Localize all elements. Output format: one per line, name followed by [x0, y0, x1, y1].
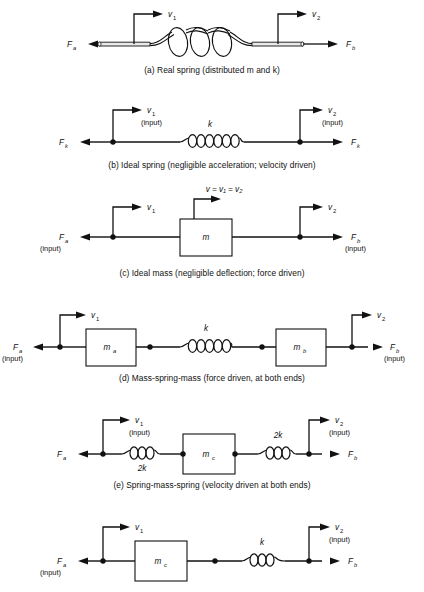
coil-a — [166, 26, 233, 58]
right-force-sub-e: b — [354, 455, 358, 461]
panel-f-mass-spring: m c F a (input) F b v 1 v 2 — [0, 505, 424, 592]
left-input-label-e: (input) — [129, 428, 150, 437]
mid-left-node-d — [147, 344, 152, 349]
left-input-label-f: (input) — [40, 568, 61, 577]
right-velocity-sub-c: 2 — [333, 208, 336, 214]
spring-k-b — [180, 135, 244, 148]
panel-c-diagram: m F a (input) F b (input) v — [0, 183, 424, 275]
left-force-sub-e: a — [63, 455, 67, 461]
left-velocity-indicator-d — [60, 311, 86, 347]
spring-left-label-e: 2k — [137, 464, 148, 473]
right-velocity-indicator-d — [352, 311, 372, 347]
right-input-label-b: (input) — [322, 118, 343, 127]
panel-d-diagram: m a m b F a (input) — [0, 293, 424, 383]
panel-f-diagram: m c F a (input) F b v 1 v 2 — [0, 505, 424, 592]
left-force-arrow-d — [33, 343, 60, 350]
panel-a-real-spring: F a F b v 1 v 2 (a) Real spring (distrib… — [0, 0, 424, 72]
mass-sub-f: c — [164, 562, 167, 568]
panel-e-diagram: m c F a F b v 1 (input) v 2 — [0, 398, 424, 488]
left-velocity-indicator-c — [113, 203, 142, 237]
mass-block-left-d — [86, 329, 136, 366]
left-force-arrow-c — [80, 233, 113, 240]
panel-c-ideal-mass: m F a (input) F b (input) v — [0, 183, 424, 275]
right-force-sub-c: b — [357, 238, 361, 244]
center-velocity-label-c: v = v₁ = v₂ — [206, 185, 244, 194]
mass-block-right-d — [276, 329, 326, 366]
mass-right-label-d: m — [294, 343, 301, 352]
left-force-sub-f: a — [63, 562, 67, 568]
left-velocity-sub-d: 1 — [96, 316, 99, 322]
left-velocity-sub-b: 1 — [152, 111, 155, 117]
spring-label-b: k — [208, 120, 213, 129]
panel-c-caption: (c) Ideal mass (negligible deflection; f… — [0, 268, 424, 278]
right-velocity-sub-d: 2 — [382, 316, 385, 322]
mid-left-node-e — [180, 451, 185, 456]
left-rod-a — [98, 42, 150, 46]
right-force-arrow-e — [330, 450, 340, 457]
panel-a-diagram: F a F b v 1 v 2 — [0, 0, 424, 72]
right-input-label-f: (input) — [329, 535, 350, 544]
right-force-arrow-d — [373, 343, 383, 350]
spring-2k-right-e — [258, 447, 296, 459]
left-force-arrow-e — [78, 450, 103, 457]
spring-2k-left-e — [122, 447, 160, 459]
left-velocity-indicator-f — [103, 523, 130, 561]
right-force-sub-f: b — [354, 562, 358, 568]
mass-left-label-d: m — [104, 343, 111, 352]
left-velocity-sub-c: 1 — [152, 208, 155, 214]
right-velocity-sub-f: 2 — [340, 528, 343, 534]
right-force-arrow-f — [330, 557, 340, 564]
mid-right-node-e — [232, 451, 237, 456]
left-input-label-d: (input) — [2, 354, 23, 363]
mass-label-c: m — [203, 233, 210, 242]
left-input-label-b: (input) — [141, 118, 162, 127]
right-velocity-indicator-f — [309, 523, 330, 561]
right-velocity-indicator-a — [278, 10, 307, 44]
mid-right-node-d — [259, 344, 264, 349]
right-input-label-d: (input) — [384, 354, 405, 363]
mass-label-f: m — [155, 557, 162, 566]
left-force-sub-c: a — [65, 238, 69, 244]
left-force-arrow-b — [80, 138, 113, 145]
right-force-arrow-a — [303, 40, 338, 47]
center-velocity-indicator-c — [194, 195, 221, 219]
right-velocity-sub-b: 2 — [333, 111, 336, 117]
left-force-sub-d: a — [19, 348, 23, 354]
left-velocity-sub-f: 1 — [140, 528, 143, 534]
panel-b-caption: (b) Ideal spring (negligible acceleratio… — [0, 160, 424, 170]
mass-sub-e: c — [212, 455, 215, 461]
left-velocity-sub-a: 1 — [173, 15, 176, 21]
panel-a-caption: (a) Real spring (distributed m and k) — [0, 65, 424, 75]
spring-right-label-e: 2k — [273, 431, 284, 440]
right-force-sub-b: k — [357, 143, 361, 149]
spring-label-d: k — [204, 324, 209, 333]
right-force-sub-d: b — [396, 348, 400, 354]
panel-b-ideal-spring: F k F k v 1 (input) v 2 (input) k (b) Id… — [0, 96, 424, 176]
right-input-label-c: (input) — [345, 244, 366, 253]
panel-d-mass-spring-mass: m a m b F a (input) — [0, 293, 424, 383]
left-force-sub-b: k — [65, 143, 69, 149]
spring-k-f — [242, 554, 285, 566]
right-force-sub-a: b — [352, 45, 356, 51]
left-input-label-c: (input) — [40, 244, 61, 253]
panel-e-spring-mass-spring: m c F a F b v 1 (input) v 2 — [0, 398, 424, 488]
mid-node-f — [212, 558, 217, 563]
left-velocity-indicator-e — [103, 416, 130, 454]
right-velocity-sub-a: 2 — [317, 15, 320, 21]
panel-d-caption: (d) Mass-spring-mass (force driven, at b… — [0, 373, 424, 383]
right-velocity-indicator-b — [300, 106, 323, 142]
panel-e-caption: (e) Spring-mass-spring (velocity driven … — [0, 480, 424, 490]
left-velocity-indicator-a — [134, 10, 163, 44]
left-force-arrow-f — [78, 557, 103, 564]
right-velocity-indicator-e — [309, 416, 330, 454]
right-input-label-e: (input) — [329, 428, 350, 437]
right-velocity-sub-e: 2 — [340, 421, 343, 427]
left-force-sub-a: a — [73, 45, 77, 51]
right-velocity-indicator-c — [300, 203, 323, 237]
right-force-arrow-c — [333, 233, 343, 240]
mass-label-e: m — [203, 450, 210, 459]
spring-label-f: k — [260, 538, 265, 547]
spring-k-d — [180, 340, 232, 353]
left-velocity-indicator-b — [113, 106, 142, 142]
left-velocity-sub-e: 1 — [140, 421, 143, 427]
